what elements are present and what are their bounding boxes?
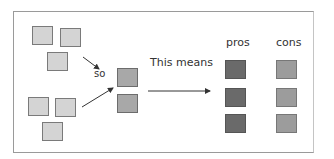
arrows-layer: [0, 0, 334, 159]
arrow-bottom-to-result: [82, 88, 113, 107]
arrow-top-to-result: [83, 57, 99, 69]
